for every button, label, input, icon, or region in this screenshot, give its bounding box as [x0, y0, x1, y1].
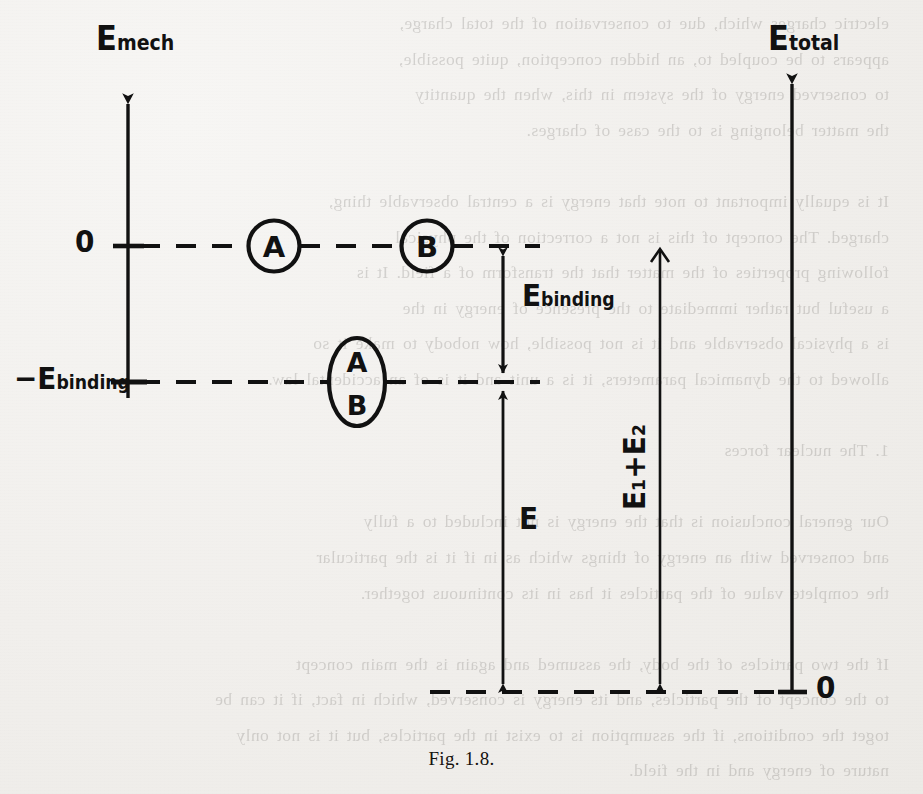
right-axis-title-base: E	[768, 18, 789, 58]
left-axis-title-sub: mech	[117, 30, 174, 55]
molecule-ab-label-bottom: B	[347, 390, 368, 421]
left-axis-title-base: E	[96, 18, 117, 58]
left-axis-tick-label-binding: −Ebinding	[14, 360, 130, 396]
binding-energy-label-base: E	[522, 277, 541, 313]
atom-b-label: B	[416, 230, 438, 264]
right-axis-tick-label-zero: 0	[816, 669, 835, 705]
right-axis	[778, 84, 807, 692]
binding-energy-label-sub: binding	[541, 288, 615, 311]
rest-energy-sum-label: E₁+E₂	[616, 424, 652, 510]
figure-caption: Fig. 1.8.	[0, 748, 923, 770]
left-axis	[111, 104, 147, 398]
left-axis-tick-binding-sub: binding	[56, 371, 130, 394]
rest-energy-sum-arrow	[651, 249, 669, 684]
left-axis-tick-binding-base: −E	[14, 360, 56, 396]
molecule-ab-label-top: A	[347, 347, 368, 378]
atom-a-label: A	[263, 230, 286, 264]
energy-level-diagram: A B A B	[0, 0, 923, 794]
left-axis-tick-label-zero: 0	[75, 223, 94, 259]
energy-e-label: E	[519, 500, 538, 536]
left-axis-title: Emech	[96, 18, 174, 58]
level-lines	[140, 246, 800, 692]
binding-energy-label: Ebinding	[522, 277, 615, 313]
right-axis-title: Etotal	[768, 18, 839, 58]
right-axis-title-sub: total	[789, 30, 839, 55]
